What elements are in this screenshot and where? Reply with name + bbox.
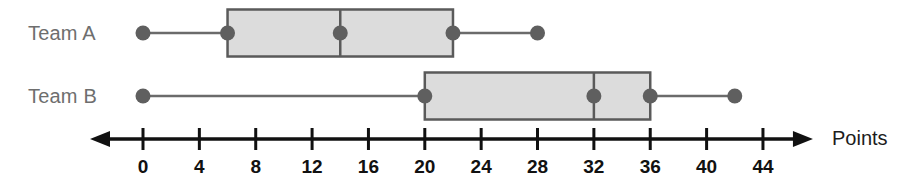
marker-median-team-a [333, 26, 348, 41]
tick-label-8: 8 [250, 156, 261, 178]
axis-arrow-left-icon [90, 131, 110, 147]
marker-min-team-a [136, 26, 151, 41]
tick-label-40: 40 [696, 156, 717, 178]
marker-max-team-a [530, 26, 545, 41]
tick-label-12: 12 [302, 156, 323, 178]
tick-label-32: 32 [583, 156, 604, 178]
box-plot-chart: Team A Team B Points 0 4 8 12 16 20 24 2… [0, 0, 913, 194]
marker-q1-team-b [417, 89, 432, 104]
marker-q3-team-b [643, 89, 658, 104]
tick-label-0: 0 [138, 156, 149, 178]
tick-label-16: 16 [358, 156, 379, 178]
tick-label-44: 44 [752, 156, 773, 178]
axis-arrow-right-icon [793, 131, 813, 147]
marker-q3-team-a [445, 26, 460, 41]
tick-label-20: 20 [414, 156, 435, 178]
marker-median-team-b [586, 89, 601, 104]
marker-min-team-b [136, 89, 151, 104]
box-team-b [425, 73, 650, 120]
axis-title-points: Points [832, 127, 888, 150]
marker-max-team-b [727, 89, 742, 104]
tick-label-36: 36 [640, 156, 661, 178]
tick-label-24: 24 [471, 156, 492, 178]
tick-label-4: 4 [194, 156, 205, 178]
marker-q1-team-a [220, 26, 235, 41]
tick-label-28: 28 [527, 156, 548, 178]
